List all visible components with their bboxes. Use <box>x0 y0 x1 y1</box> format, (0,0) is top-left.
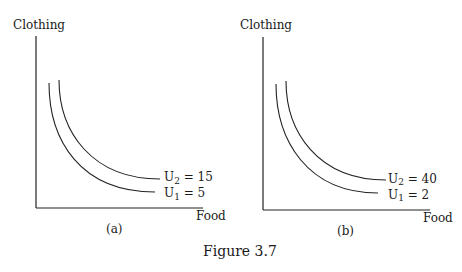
indifference-curve-u2 <box>286 81 386 180</box>
figure: Clothing Food U2 = 15 U1 = 5 (a) Clothin… <box>0 0 462 272</box>
curve-label-u2: U2 = 40 <box>388 172 437 187</box>
indifference-curve-u2 <box>59 80 160 179</box>
panel-label-b: (b) <box>337 224 354 238</box>
panel-label-a: (a) <box>106 222 123 236</box>
y-axis-label: Clothing <box>240 18 292 32</box>
y-axis-label: Clothing <box>13 18 65 32</box>
x-axis-label: Food <box>196 209 226 223</box>
indifference-curve-u1 <box>49 83 155 192</box>
x-axis-label: Food <box>423 211 453 225</box>
curve-label-u1: U1 = 5 <box>164 186 205 202</box>
figure-caption: Figure 3.7 <box>203 243 277 259</box>
panel-b: Clothing Food U2 = 40 U1 = 2 (b) <box>240 18 453 238</box>
indifference-curve-u1 <box>276 84 378 193</box>
curve-label-u2: U2 = 15 <box>164 170 213 186</box>
panel-a: Clothing Food U2 = 15 U1 = 5 (a) <box>13 18 226 236</box>
curve-label-u1: U1 = 2 <box>388 188 429 203</box>
